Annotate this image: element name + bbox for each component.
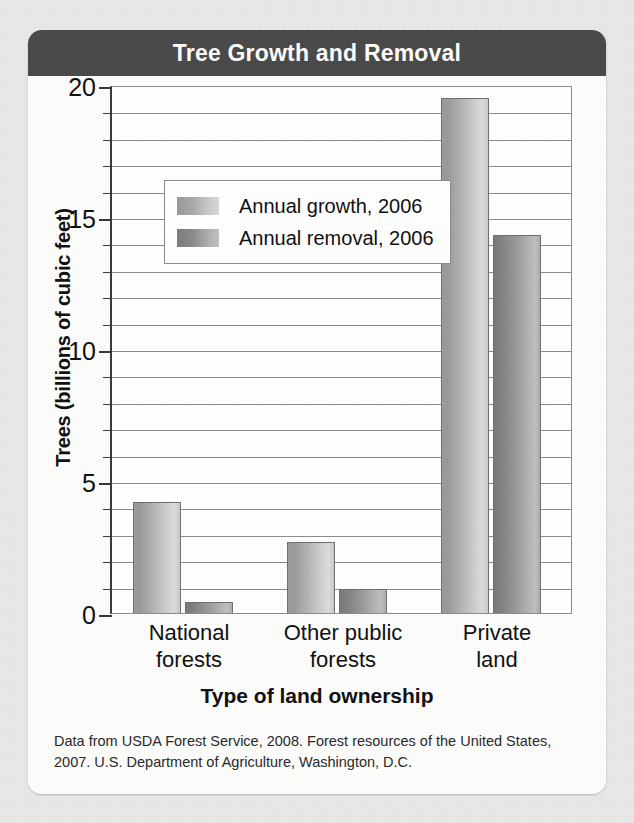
bar-annual-growth (441, 98, 489, 613)
y-axis-minor-tick (103, 113, 112, 114)
chart-header-bar: Tree Growth and Removal (28, 30, 606, 76)
bars-layer (112, 87, 571, 613)
bar-annual-growth (133, 502, 181, 613)
y-axis-minor-tick (103, 140, 112, 141)
x-axis-title: Type of land ownership (28, 684, 606, 708)
y-axis-tick-label: 0 (82, 601, 96, 630)
legend-label-growth: Annual growth, 2006 (239, 195, 422, 218)
y-axis-minor-tick (103, 404, 112, 405)
legend-swatch-growth-icon (177, 197, 219, 215)
x-axis-tick-label-line: Private (420, 620, 574, 647)
legend-item-removal: Annual removal, 2006 (177, 222, 434, 254)
y-axis-minor-tick (103, 272, 112, 273)
chart-legend: Annual growth, 2006 Annual removal, 2006 (164, 180, 451, 264)
y-axis-minor-tick (103, 377, 112, 378)
y-axis-minor-tick (103, 457, 112, 458)
y-axis-minor-tick (103, 509, 112, 510)
y-axis-minor-tick (103, 193, 112, 194)
y-axis-tick-label: 15 (68, 205, 96, 234)
y-axis-minor-tick (103, 589, 112, 590)
y-axis-major-tick (99, 615, 112, 617)
bar-group (133, 87, 233, 613)
x-axis-tick-label: Other publicforests (266, 620, 420, 674)
x-axis-tick-label-line: National (112, 620, 266, 647)
bar-annual-removal (185, 602, 233, 613)
y-axis-major-tick (99, 351, 112, 353)
plot-area: 05101520 (110, 86, 572, 614)
x-axis-tick-label-line: Other public (266, 620, 420, 647)
y-axis-minor-tick (103, 536, 112, 537)
y-axis-tick-label: 5 (82, 469, 96, 498)
plot-wrapper: Trees (billions of cubic feet) 05101520 … (28, 76, 606, 696)
legend-label-removal: Annual removal, 2006 (239, 227, 434, 250)
bar-annual-removal (339, 589, 387, 613)
x-axis-tick-label-line: forests (266, 647, 420, 674)
legend-swatch-removal-icon (177, 229, 219, 247)
y-axis-tick-label: 10 (68, 337, 96, 366)
y-axis-major-tick (99, 483, 112, 485)
chart-title: Tree Growth and Removal (173, 40, 461, 67)
x-axis-tick-label-line: land (420, 647, 574, 674)
chart-body: Trees (billions of cubic feet) 05101520 … (28, 76, 606, 794)
y-axis-minor-tick (103, 166, 112, 167)
bar-annual-growth (287, 542, 335, 613)
source-note: Data from USDA Forest Service, 2008. For… (54, 731, 580, 775)
legend-item-growth: Annual growth, 2006 (177, 190, 434, 222)
y-axis-minor-tick (103, 245, 112, 246)
y-axis-minor-tick (103, 325, 112, 326)
x-axis-tick-label: Nationalforests (112, 620, 266, 674)
y-axis-major-tick (99, 87, 112, 89)
bar-group (287, 87, 387, 613)
x-axis-tick-label: Privateland (420, 620, 574, 674)
y-axis-minor-tick (103, 298, 112, 299)
y-axis-major-tick (99, 219, 112, 221)
y-axis-minor-tick (103, 562, 112, 563)
x-axis-tick-label-line: forests (112, 647, 266, 674)
y-axis-tick-label: 20 (68, 73, 96, 102)
y-axis-minor-tick (103, 430, 112, 431)
bar-annual-removal (493, 235, 541, 613)
x-axis-tick-labels: NationalforestsOther publicforestsPrivat… (112, 620, 574, 682)
chart-card: Tree Growth and Removal Trees (billions … (28, 30, 606, 794)
bar-group (441, 87, 541, 613)
